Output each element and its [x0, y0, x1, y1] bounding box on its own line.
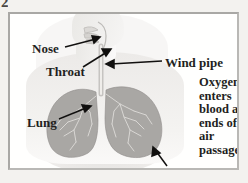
- callout-line: ends of: [199, 117, 239, 131]
- figure-panel: Nose Throat Wind pipe Lung Air passages …: [10, 14, 237, 168]
- figure-page: 2: [0, 0, 248, 183]
- callout-line: air: [199, 130, 239, 144]
- label-lung: Lung: [27, 115, 57, 131]
- callout-line: enters: [199, 90, 239, 104]
- label-nose: Nose: [32, 41, 59, 57]
- label-wind-pipe: Wind pipe: [165, 55, 223, 71]
- callout-line: Oxygen: [199, 76, 239, 90]
- figure-frame: Nose Throat Wind pipe Lung Air passages …: [8, 12, 239, 170]
- label-throat: Throat: [46, 64, 85, 80]
- callout-line: blood at: [199, 103, 239, 117]
- page-number: 2: [1, 0, 8, 8]
- callout-text-block: Oxygen enters blood at ends of air passa…: [199, 76, 239, 158]
- head-silhouette: [72, 12, 124, 48]
- callout-line: passages: [199, 144, 239, 158]
